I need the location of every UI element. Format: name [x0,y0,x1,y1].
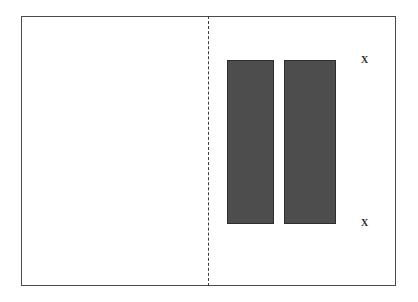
hatched-bar-left [227,60,274,224]
hatched-bar-right [284,60,336,224]
label-x-bottom: X [361,218,368,228]
figure-canvas: X X [0,0,418,302]
label-x-top: X [361,55,368,65]
vertical-dashed-centerline [208,16,209,286]
